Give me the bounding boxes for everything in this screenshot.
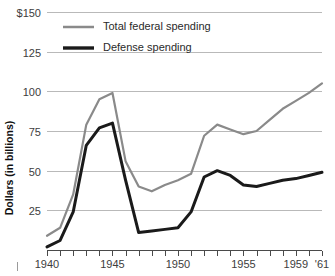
spending-line-chart: 255075100125$150 19401945195019551959'61…	[0, 0, 335, 276]
chart-container: 255075100125$150 19401945195019551959'61…	[0, 0, 335, 276]
series-line-total-federal-spending	[47, 83, 322, 235]
y-axis-tick-labels: 255075100125$150	[17, 7, 41, 217]
y-axis-title: Dollars (in billions)	[3, 121, 15, 216]
x-axis-tickmarks	[48, 251, 323, 256]
y-tick-label-125: 125	[23, 47, 41, 59]
y-axis-title-group: Dollars (in billions)	[3, 121, 15, 216]
y-tick-label-75: 75	[29, 126, 41, 138]
y-tick-label-25: 25	[29, 205, 41, 217]
x-tick-label-1955: 1955	[231, 258, 255, 270]
legend: Total federal spendingDefense spending	[63, 20, 211, 53]
series-group	[47, 83, 322, 246]
legend-label-0: Total federal spending	[103, 20, 211, 32]
y-tick-label-100: 100	[23, 86, 41, 98]
x-axis-tick-labels: 19401945195019551959'61	[35, 258, 329, 270]
series-line-defense-spending	[47, 123, 322, 247]
x-tick-label-1940: 1940	[35, 258, 59, 270]
y-tick-label-50: 50	[29, 166, 41, 178]
x-tick-label-1959: 1959	[284, 258, 308, 270]
x-tick-label-1945: 1945	[100, 258, 124, 270]
legend-label-1: Defense spending	[103, 41, 192, 53]
y-tick-label-150: $150	[17, 7, 41, 19]
x-axis-group: 19401945195019551959'61	[35, 251, 329, 271]
x-tick-label-1961: '61	[315, 258, 329, 270]
x-tick-label-1950: 1950	[166, 258, 190, 270]
